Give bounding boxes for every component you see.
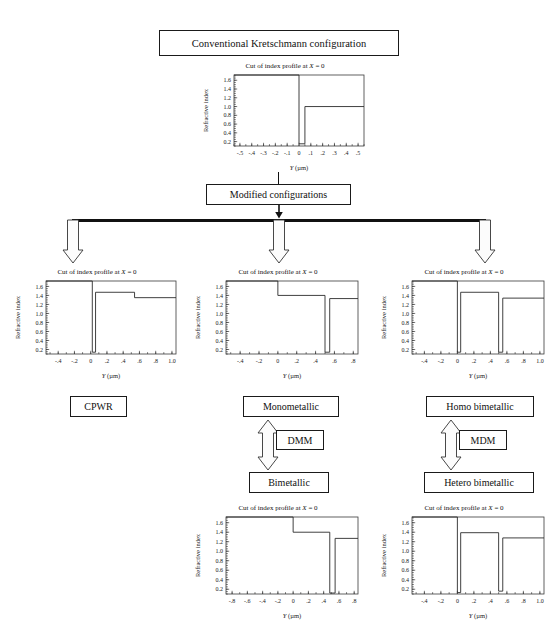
node-modified-configurations[interactable]: Modified configurations [206,184,351,205]
chart-bimetallic: Cut of index profile at X = 0 1.61.41.21… [192,504,364,620]
chart-homo-bimetallic-title: Cut of index profile at X = 0 [378,268,550,276]
svg-text:0.2: 0.2 [224,139,232,145]
svg-text:.8: .8 [153,358,158,364]
chart-conventional: Cut of index profile at X = 0 1.61.41.21… [200,62,370,172]
svg-text:0.6: 0.6 [216,329,224,335]
chart-conventional-svg: 1.61.41.21.00.80.60.40.2-.5-.4-.3-.2-.10… [200,62,370,172]
svg-text:-.2: -.2 [272,150,279,156]
svg-text:.2: .2 [294,358,299,364]
chart-monometallic: Cut of index profile at X = 0 1.61.41.21… [192,268,364,380]
node-monometallic[interactable]: Monometallic [243,396,339,417]
chart-bimetallic-title: Cut of index profile at X = 0 [192,504,364,512]
svg-text:Y (µm): Y (µm) [283,372,301,380]
arrow-bus-to-cpwr [62,220,84,264]
svg-text:-.5: -.5 [237,150,244,156]
node-dmm-label: DMM [287,435,312,446]
svg-text:1.4: 1.4 [402,529,410,535]
svg-text:.2: .2 [472,358,477,364]
svg-text:.4: .4 [344,150,349,156]
svg-text:Refractive index: Refractive index [194,295,201,339]
node-cpwr[interactable]: CPWR [70,396,127,417]
svg-text:.4: .4 [488,358,493,364]
svg-text:-.3: -.3 [260,150,267,156]
svg-text:1.2: 1.2 [402,539,410,545]
node-hetero-bimetallic[interactable]: Hetero bimetallic [424,472,534,493]
node-hetero-bimetallic-label: Hetero bimetallic [444,477,514,488]
svg-text:Refractive index: Refractive index [380,295,387,339]
node-homo-bimetallic-label: Homo bimetallic [446,401,514,412]
node-bimetallic-label: Bimetallic [268,477,310,488]
svg-text:0.6: 0.6 [224,121,232,127]
svg-text:1.0: 1.0 [216,311,224,317]
svg-text:-.4: -.4 [421,598,428,604]
svg-text:.4: .4 [321,598,326,604]
svg-text:-.4: -.4 [259,598,266,604]
node-modified-label: Modified configurations [230,189,327,200]
chart-cpwr-title: Cut of index profile at X = 0 [12,268,182,276]
chart-homo-bimetallic: Cut of index profile at X = 0 1.61.41.21… [378,268,550,380]
svg-text:1.2: 1.2 [224,95,232,101]
svg-text:0.4: 0.4 [224,130,232,136]
node-bimetallic[interactable]: Bimetallic [249,472,329,493]
svg-text:1.6: 1.6 [36,284,44,290]
svg-text:.6: .6 [337,598,342,604]
svg-text:-.6: -.6 [244,598,251,604]
svg-text:1.2: 1.2 [402,302,410,308]
svg-text:0.6: 0.6 [36,329,44,335]
svg-text:-.2: -.2 [438,358,445,364]
svg-text:-.2: -.2 [256,358,263,364]
svg-text:-.4: -.4 [421,358,428,364]
node-conventional-kretschmann[interactable]: Conventional Kretschmann configuration [159,30,399,56]
svg-text:1.0: 1.0 [402,548,410,554]
svg-text:1.4: 1.4 [216,293,224,299]
arrow-modified-to-bus [271,205,287,219]
svg-text:0.6: 0.6 [402,567,410,573]
node-dmm[interactable]: DMM [276,430,324,450]
svg-text:-.2: -.2 [275,598,282,604]
svg-text:Refractive index: Refractive index [194,533,201,577]
svg-text:.8: .8 [352,598,357,604]
node-homo-bimetallic[interactable]: Homo bimetallic [426,396,534,417]
node-monometallic-label: Monometallic [263,401,319,412]
svg-text:Y (µm): Y (µm) [469,612,487,620]
svg-text:.6: .6 [332,358,337,364]
svg-text:-.4: -.4 [237,358,244,364]
svg-text:Refractive index: Refractive index [14,295,21,339]
svg-text:1.6: 1.6 [402,284,410,290]
svg-text:0: 0 [456,598,459,604]
node-mdm-label: MDM [470,435,495,446]
svg-text:0.4: 0.4 [402,577,410,583]
svg-text:-.1: -.1 [284,150,291,156]
node-mdm[interactable]: MDM [459,430,507,450]
svg-text:1.4: 1.4 [402,293,410,299]
svg-text:1.4: 1.4 [224,86,232,92]
chart-hetero-bimetallic: Cut of index profile at X = 0 1.61.41.21… [378,504,550,620]
svg-text:0: 0 [456,358,459,364]
svg-text:0.2: 0.2 [216,347,224,353]
svg-text:1.0: 1.0 [168,358,176,364]
svg-text:1.2: 1.2 [36,302,44,308]
svg-text:0.2: 0.2 [402,586,410,592]
svg-text:1.0: 1.0 [224,104,232,110]
connector-conventional-to-modified [278,172,279,184]
svg-text:0.8: 0.8 [216,320,224,326]
svg-text:1.6: 1.6 [216,520,224,526]
svg-text:.2: .2 [105,358,110,364]
svg-text:-.4: -.4 [55,358,62,364]
svg-text:1.0: 1.0 [36,311,44,317]
svg-text:.8: .8 [521,598,526,604]
svg-text:1.6: 1.6 [402,520,410,526]
svg-text:1.0: 1.0 [536,358,544,364]
svg-text:0.2: 0.2 [216,586,224,592]
svg-text:.4: .4 [313,358,318,364]
svg-text:.4: .4 [488,598,493,604]
svg-text:0: 0 [298,150,301,156]
svg-text:.4: .4 [121,358,126,364]
svg-text:.2: .2 [472,598,477,604]
svg-text:-.2: -.2 [438,598,445,604]
chart-bimetallic-svg: 1.61.41.21.00.80.60.40.2-.8-.6-.4-.20.2.… [192,504,364,620]
svg-text:.5: .5 [356,150,361,156]
svg-text:-.8: -.8 [229,598,236,604]
svg-text:.6: .6 [137,358,142,364]
svg-text:-.4: -.4 [248,150,255,156]
